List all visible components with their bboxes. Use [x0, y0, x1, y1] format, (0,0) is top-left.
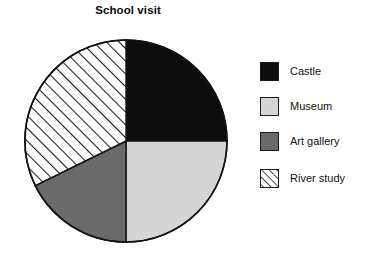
legend-item-river-study[interactable]: River study [260, 167, 345, 189]
museum-swatch [260, 97, 279, 116]
legend-label-art-gallery: Art gallery [290, 136, 340, 147]
legend-item-art-gallery[interactable]: Art gallery [260, 130, 340, 152]
hatch-pattern-icon [261, 170, 278, 187]
pie-slice-museum [126, 141, 227, 242]
river-study-swatch [260, 169, 279, 188]
art-gallery-swatch [260, 132, 279, 151]
legend-label-museum: Museum [290, 101, 332, 112]
pie-chart-figure: School visit Castle Mu [0, 0, 370, 262]
pie-chart-graphic [0, 0, 258, 262]
legend-label-river-study: River study [290, 173, 345, 184]
pie-slice-castle [126, 40, 227, 141]
legend-item-museum[interactable]: Museum [260, 95, 332, 117]
legend-label-castle: Castle [290, 66, 321, 77]
castle-swatch [260, 62, 279, 81]
legend-item-castle[interactable]: Castle [260, 60, 321, 82]
